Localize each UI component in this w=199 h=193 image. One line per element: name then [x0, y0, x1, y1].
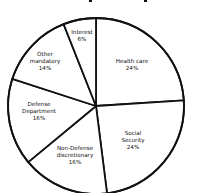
label-line: mandatory — [30, 58, 61, 65]
label-pct: 6% — [71, 36, 93, 43]
label-line: Other — [30, 51, 61, 58]
label-line: discretionary — [57, 152, 93, 159]
label-pct: 16% — [22, 115, 56, 122]
slice-label-non-defense: Non-Defense discretionary 16% — [57, 145, 93, 166]
label-line: Social — [122, 130, 145, 137]
pie-chart — [0, 0, 199, 193]
label-line: Security — [122, 137, 145, 144]
label-pct: 16% — [57, 159, 93, 166]
label-pct: 24% — [116, 65, 148, 72]
label-pct: 14% — [30, 65, 61, 72]
label-pct: 24% — [122, 144, 145, 151]
label-line: Defense — [22, 101, 56, 108]
slice-label-interest: Interest 6% — [71, 29, 93, 43]
label-line: Department — [22, 108, 56, 115]
label-line: Non-Defense — [57, 145, 93, 152]
label-line: Interest — [71, 29, 93, 36]
slice-label-defense: Defense Department 16% — [22, 101, 56, 122]
label-line: Health care — [116, 58, 148, 65]
slice-label-social-security: Social Security 24% — [122, 130, 145, 151]
slice-label-other-mandatory: Other mandatory 14% — [30, 51, 61, 72]
slice-label-health-care: Health care 24% — [116, 58, 148, 72]
